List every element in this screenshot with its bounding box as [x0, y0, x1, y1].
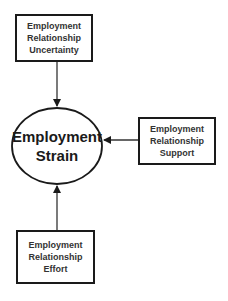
- node-support: Employment Relationship Support: [138, 117, 216, 165]
- node-effort-line2: Relationship: [28, 251, 82, 263]
- node-effort-line1: Employment: [28, 239, 82, 251]
- central-line2: Strain: [36, 146, 79, 165]
- diagram-canvas: Employment Relationship Uncertainty Empl…: [0, 0, 228, 301]
- central-node-label: Employment Strain: [12, 108, 102, 184]
- node-effort-line3: Effort: [44, 263, 68, 275]
- node-support-line3: Support: [160, 147, 195, 159]
- node-uncertainty: Employment Relationship Uncertainty: [15, 14, 93, 62]
- node-uncertainty-line2: Relationship: [27, 32, 81, 44]
- node-support-line2: Relationship: [150, 135, 204, 147]
- node-support-line1: Employment: [150, 123, 204, 135]
- node-uncertainty-line1: Employment: [27, 20, 81, 32]
- node-uncertainty-line3: Uncertainty: [29, 44, 79, 56]
- node-effort: Employment Relationship Effort: [16, 230, 95, 284]
- central-line1: Employment: [12, 127, 102, 146]
